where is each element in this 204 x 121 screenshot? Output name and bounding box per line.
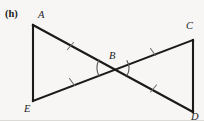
tick-mark-EB [70, 79, 75, 86]
vertex-label-A: A [38, 10, 44, 21]
vertex-label-C: C [186, 21, 193, 32]
geometry-figure: (h) A E C D B [0, 0, 204, 121]
bottom-edge-rule [0, 120, 204, 121]
angle-arc-ABE [97, 60, 99, 77]
vertex-label-B: B [109, 51, 115, 62]
angle-arc-CBD [127, 60, 129, 76]
figure-canvas [0, 0, 204, 121]
segment-AD [33, 25, 193, 112]
vertex-label-E: E [24, 104, 30, 115]
